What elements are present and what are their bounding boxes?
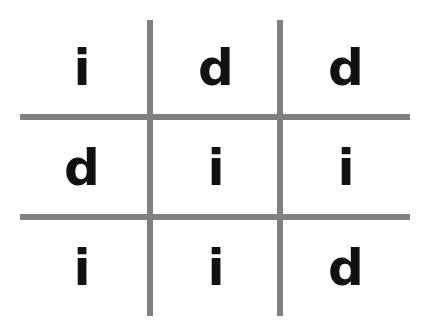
cell-r1-c3: d bbox=[281, 20, 411, 116]
cell-r1-c1: i bbox=[17, 20, 147, 116]
cell-r3-c2: i bbox=[151, 220, 281, 316]
cell-r3-c1: i bbox=[17, 220, 147, 316]
cell-r2-c3: i bbox=[281, 120, 411, 216]
cell-r1-c2: d bbox=[151, 20, 281, 116]
cell-r2-c1: d bbox=[17, 120, 147, 216]
cell-r3-c3: d bbox=[281, 220, 411, 316]
cell-r2-c2: i bbox=[151, 120, 281, 216]
